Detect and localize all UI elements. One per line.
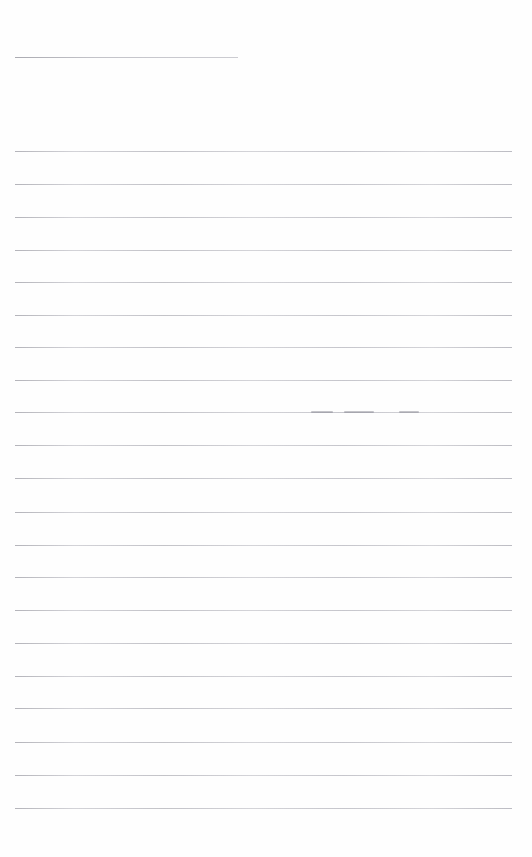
paper-surface xyxy=(0,0,532,857)
scanned-page xyxy=(0,0,532,857)
title-rule xyxy=(15,57,238,58)
